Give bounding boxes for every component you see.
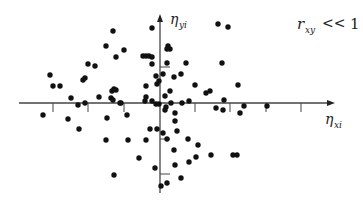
- x-label-symbol: η: [325, 111, 334, 127]
- data-point: [153, 73, 158, 78]
- data-point: [110, 28, 115, 33]
- data-point: [156, 78, 161, 83]
- data-point: [103, 137, 108, 142]
- data-point: [47, 72, 52, 77]
- data-point: [75, 102, 80, 107]
- data-point: [153, 101, 158, 106]
- annotation-subscript: xy: [305, 25, 316, 35]
- data-point: [168, 100, 173, 105]
- data-point: [162, 93, 167, 98]
- data-point: [136, 155, 141, 160]
- data-point: [186, 159, 191, 164]
- data-point: [241, 103, 246, 108]
- data-point: [179, 100, 184, 105]
- data-point: [110, 97, 115, 102]
- data-point: [215, 21, 220, 26]
- data-point: [50, 83, 55, 88]
- data-point: [113, 54, 118, 59]
- annotation-value: 1: [350, 15, 360, 33]
- data-point: [186, 98, 191, 103]
- data-point: [164, 46, 169, 51]
- x-label-subscript: xi: [334, 120, 342, 130]
- data-point: [174, 128, 179, 133]
- data-point: [85, 61, 90, 66]
- data-point: [220, 107, 225, 112]
- data-point: [68, 95, 73, 100]
- data-point: [192, 82, 197, 87]
- data-point: [172, 110, 177, 115]
- x-axis-label: η xi: [325, 111, 342, 130]
- data-point: [65, 116, 70, 121]
- data-point: [164, 136, 169, 141]
- data-point: [147, 126, 152, 131]
- data-point: [193, 154, 198, 159]
- data-point: [234, 152, 239, 157]
- data-points: [40, 21, 269, 188]
- data-point: [103, 43, 108, 48]
- correlation-annotation: r xy << 1: [297, 15, 360, 35]
- data-point: [162, 107, 167, 112]
- data-point: [235, 82, 240, 87]
- x-axis-arrow-icon: [327, 100, 335, 106]
- data-point: [178, 175, 183, 180]
- data-point: [219, 60, 224, 65]
- data-point: [203, 90, 208, 95]
- data-point: [143, 137, 148, 142]
- data-point: [109, 88, 114, 93]
- data-point: [154, 126, 159, 131]
- data-point: [237, 110, 242, 115]
- data-point: [178, 71, 183, 76]
- data-point: [171, 147, 176, 152]
- data-point: [143, 83, 148, 88]
- data-point: [76, 126, 81, 131]
- data-point: [172, 118, 177, 123]
- y-axis-label: η yi: [170, 11, 187, 30]
- data-point: [149, 54, 154, 59]
- data-point: [185, 136, 190, 141]
- data-point: [183, 60, 188, 65]
- data-point: [225, 24, 230, 29]
- data-point: [152, 165, 157, 170]
- y-axis-arrow-icon: [157, 14, 163, 22]
- data-point: [221, 97, 226, 102]
- data-point: [195, 142, 200, 147]
- data-point: [82, 75, 87, 80]
- data-point: [213, 105, 218, 110]
- data-point: [167, 88, 172, 93]
- data-point: [208, 152, 213, 157]
- y-label-symbol: η: [170, 11, 179, 27]
- data-point: [149, 61, 154, 66]
- data-point: [164, 60, 169, 65]
- data-point: [160, 130, 165, 135]
- data-point: [160, 71, 165, 76]
- data-point: [92, 63, 97, 68]
- data-point: [121, 47, 126, 52]
- data-point: [142, 98, 147, 103]
- data-point: [57, 83, 62, 88]
- data-point: [40, 112, 45, 117]
- data-point: [124, 112, 129, 117]
- annotation-relation: <<: [322, 15, 345, 31]
- data-point: [149, 25, 154, 30]
- data-point: [117, 100, 122, 105]
- data-point: [171, 74, 176, 79]
- data-point: [111, 172, 116, 177]
- data-point: [172, 162, 177, 167]
- data-point: [104, 115, 109, 120]
- data-point: [264, 103, 269, 108]
- data-point: [164, 180, 169, 185]
- data-point: [82, 100, 87, 105]
- scatter-figure: η yi η xi r xy << 1: [0, 0, 363, 206]
- y-label-subscript: yi: [178, 20, 187, 30]
- annotation-symbol: r: [297, 15, 305, 33]
- data-point: [96, 94, 101, 99]
- data-point: [158, 183, 163, 188]
- data-point: [125, 137, 130, 142]
